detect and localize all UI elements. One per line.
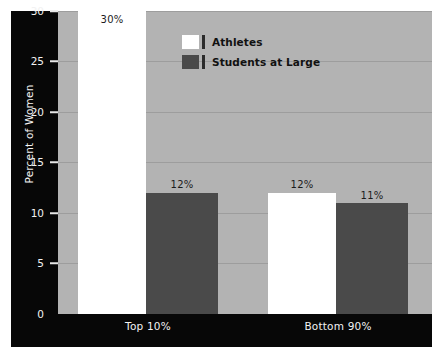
legend-rule-athletes-icon bbox=[202, 35, 205, 49]
bar-chart-figure: 30% 12% 12% 11% 30 25 20 15 10 5 0 Perce… bbox=[0, 0, 447, 359]
legend-swatch-students-icon bbox=[182, 55, 199, 69]
y-tick-label-30: 30 bbox=[31, 5, 44, 17]
legend-swatch-athletes-icon bbox=[182, 35, 199, 49]
y-tick-mark-20 bbox=[50, 111, 58, 113]
legend-rule-students-icon bbox=[202, 55, 205, 69]
y-tick-mark-5 bbox=[50, 262, 58, 264]
y-tick-mark-15 bbox=[50, 161, 58, 163]
y-axis-title: Percent of Women bbox=[23, 49, 35, 219]
legend-label-students-at-large: Students at Large bbox=[212, 56, 320, 68]
y-tick-mark-30 bbox=[50, 10, 58, 12]
y-axis-ticks: 30 25 20 15 10 5 0 Percent of Women bbox=[11, 11, 58, 314]
legend-item-students-at-large: Students at Large bbox=[182, 53, 320, 70]
x-tick-label-bottom-90: Bottom 90% bbox=[268, 320, 408, 332]
bar-value-label-students-top10: 12% bbox=[146, 179, 218, 190]
bar-students-top10 bbox=[146, 193, 218, 314]
bar-value-label-athletes-bottom90: 12% bbox=[268, 179, 336, 190]
y-tick-label-0: 0 bbox=[37, 308, 44, 320]
bar-value-label-athletes-top10: 30% bbox=[78, 14, 146, 25]
legend-item-athletes: Athletes bbox=[182, 33, 320, 50]
bar-value-label-students-bottom90: 11% bbox=[336, 190, 408, 201]
chart-legend: Athletes Students at Large bbox=[182, 33, 320, 73]
y-tick-mark-10 bbox=[50, 212, 58, 214]
bar-athletes-bottom90 bbox=[268, 193, 336, 314]
x-tick-label-top-10: Top 10% bbox=[78, 320, 218, 332]
legend-label-athletes: Athletes bbox=[212, 36, 263, 48]
y-tick-label-5: 5 bbox=[37, 257, 44, 269]
bar-students-bottom90 bbox=[336, 203, 408, 314]
y-tick-mark-25 bbox=[50, 60, 58, 62]
bar-athletes-top10 bbox=[78, 11, 146, 314]
